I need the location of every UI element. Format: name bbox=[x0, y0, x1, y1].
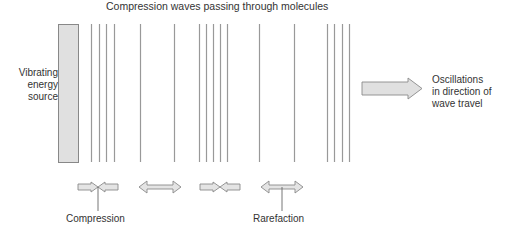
rarefaction-arrow-icon bbox=[139, 181, 181, 193]
oscillation-arrows bbox=[78, 181, 303, 193]
compression-arrows-icon bbox=[200, 182, 240, 192]
wave-diagram bbox=[0, 0, 506, 230]
vibrating-source-block bbox=[59, 25, 79, 163]
wave-lines bbox=[92, 24, 350, 162]
direction-arrow-icon bbox=[362, 78, 422, 99]
